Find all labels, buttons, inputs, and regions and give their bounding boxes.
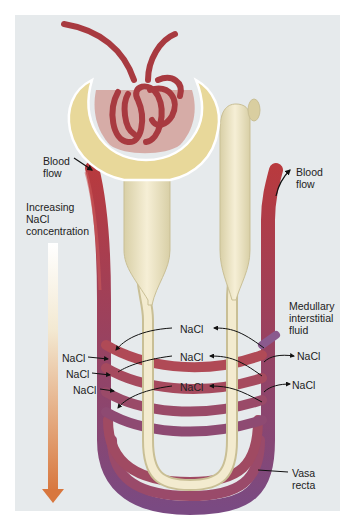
nacl-right-1: NaCl [297, 350, 320, 362]
medullary-interstitial-fluid-label: Medullary interstitial fluid [289, 300, 335, 336]
nacl-center-1: NaCl [180, 323, 203, 335]
diagram-svg [0, 0, 354, 524]
panel-background [15, 15, 340, 511]
tubule-opening [248, 99, 260, 121]
nacl-center-2: NaCl [180, 351, 203, 363]
blood-flow-out-label: Blood flow [296, 166, 323, 190]
nacl-center-3: NaCl [180, 381, 203, 393]
nacl-left-1: NaCl [62, 352, 85, 364]
nacl-right-2: NaCl [292, 379, 315, 391]
vasa-recta-label: Vasa recta [292, 467, 315, 491]
nacl-left-2: NaCl [66, 368, 89, 380]
increasing-nacl-label: Increasing NaCl concentration [26, 201, 89, 237]
vasa-recta-diagram: Blood flow Blood flow Increasing NaCl co… [0, 0, 354, 524]
blood-flow-in-label: Blood flow [43, 155, 70, 179]
nacl-left-3: NaCl [73, 384, 96, 396]
